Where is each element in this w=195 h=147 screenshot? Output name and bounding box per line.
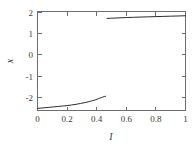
x-tick-label: 0 — [35, 114, 40, 124]
y-tick-label: 2 — [29, 8, 34, 18]
y-tick-label: 0 — [29, 50, 34, 60]
x-tick-label: 0.6 — [121, 114, 133, 124]
y-tick-label: -2 — [26, 93, 34, 103]
x-axis-title: I — [108, 131, 113, 142]
x-tick-label: 0.8 — [150, 114, 162, 124]
x-tick-label: 1 — [183, 114, 188, 124]
bifurcation-plot: 0 0.2 0.4 0.6 0.8 1 2 1 0 -1 -2 I x — [0, 0, 195, 147]
y-tick-label: 1 — [29, 29, 34, 39]
y-tick-label: -1 — [26, 72, 34, 82]
x-tick-label: 0.4 — [91, 114, 103, 124]
figure-container: 0 0.2 0.4 0.6 0.8 1 2 1 0 -1 -2 I x — [0, 0, 195, 147]
y-axis-title: x — [4, 58, 15, 64]
x-tick-label: 0.2 — [61, 114, 72, 124]
